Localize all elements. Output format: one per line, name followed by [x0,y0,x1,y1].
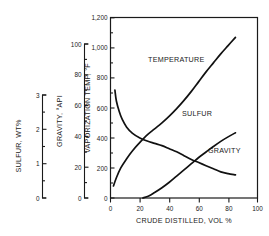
gravity-ticklabel: 100 [71,41,82,48]
x-ticklabel: 0 [109,205,113,212]
temp-ticklabel: 1,200 [92,14,108,21]
chart-svg: 3 2 1 0 SULFUR, WT% 100 80 60 40 [0,0,269,236]
x-ticklabel: 80 [225,205,233,212]
sulfur-ticklabel: 2 [36,126,40,133]
x-ticklabel: 40 [166,205,174,212]
sulfur-curve [143,133,236,198]
x-ticklabel: 20 [137,205,145,212]
temp-ticklabel: 0 [104,195,108,202]
x-ticklabel: 60 [196,205,204,212]
gravity-ticklabel: 80 [74,71,82,78]
curve-labels-group: TEMPERATURE SULFUR GRAVITY [148,55,241,155]
sulfur-ticklabel: 0 [36,195,40,202]
figure-container: 3 2 1 0 SULFUR, WT% 100 80 60 40 [0,0,269,236]
temp-ticklabel: 200 [97,165,108,172]
gravity-ticklabel: 20 [74,164,82,171]
gravity-ticklabel: 40 [74,133,82,140]
sulfur-axis-title: SULFUR, WT% [14,119,23,172]
sulfur-ticklabel: 3 [36,92,40,99]
sulfur-axis: 3 2 1 0 SULFUR, WT% [14,92,47,202]
gravity-axis-title: GRAVITY, °API [55,95,64,147]
x-axis: 0 20 40 60 80 100 CRUDE DISTILLED, VOL % [109,198,264,225]
temp-ticklabel: 600 [97,105,108,112]
gravity-curve-label: GRAVITY [208,146,241,155]
sulfur-ticklabel: 1 [36,160,40,167]
gravity-ticklabel: 0 [78,195,82,202]
x-ticklabel: 100 [252,205,263,212]
sulfur-curve-label: SULFUR [182,109,212,118]
gravity-curve [115,90,236,175]
temperature-axis-title: VAPORIZATION TEMP, °F [83,63,92,153]
temperature-curve-label: TEMPERATURE [148,55,205,64]
gravity-ticklabel: 60 [74,102,82,109]
temp-ticklabel: 400 [97,135,108,142]
temp-ticklabel: 800 [97,74,108,81]
x-axis-title: CRUDE DISTILLED, VOL % [136,216,232,225]
temp-ticklabel: 1,000 [92,44,108,51]
